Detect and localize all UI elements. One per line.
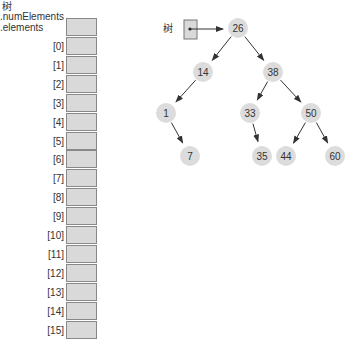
svg-text:35: 35 (256, 151, 268, 162)
tree-node: 26 (228, 18, 248, 38)
svg-text:7: 7 (187, 151, 193, 162)
svg-text:50: 50 (305, 108, 317, 119)
svg-text:38: 38 (267, 67, 279, 78)
tree-node: 35 (252, 146, 272, 166)
tree-pointer-box (184, 20, 223, 39)
svg-text:26: 26 (232, 23, 244, 34)
tree-node: 14 (193, 62, 213, 82)
svg-text:60: 60 (329, 151, 341, 162)
svg-text:14: 14 (197, 67, 209, 78)
tree-node: 60 (325, 146, 345, 166)
svg-text:1: 1 (163, 108, 169, 119)
tree-node: 1 (156, 103, 176, 123)
svg-text:44: 44 (280, 151, 292, 162)
tree-node: 44 (276, 146, 296, 166)
tree-node: 50 (301, 103, 321, 123)
tree-diagram: 261438133507354460 (0, 0, 350, 348)
tree-node: 33 (240, 103, 260, 123)
tree-node: 7 (180, 146, 200, 166)
svg-text:33: 33 (244, 108, 256, 119)
tree-edges (171, 37, 327, 143)
tree-pointer-label: 树 (163, 24, 173, 34)
tree-node: 38 (263, 62, 283, 82)
